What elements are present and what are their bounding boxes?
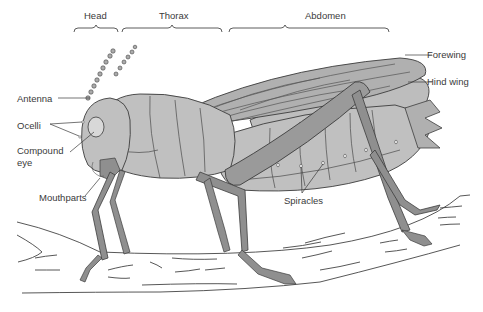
hind-tarsus [402,230,432,246]
abdomen-bracket [229,25,389,32]
antenna-segments [86,45,137,100]
front-leg [92,172,115,260]
front-tarsus [80,255,102,282]
compound-eye [88,117,104,137]
thorax-bracket [122,25,222,32]
label-mouthparts: Mouthparts [39,192,87,203]
head-bracket [74,25,118,32]
front-leg-far [110,170,130,254]
ocellus-lower [79,136,81,138]
label-antenna: Antenna [17,93,52,104]
region-label-head: Head [84,10,107,21]
middle-tarsus [238,250,296,284]
label-ocelli: Ocelli [17,120,41,131]
region-label-abdomen: Abdomen [305,10,346,21]
label-hind-wing: Hind wing [427,76,469,87]
grasshopper-diagram: Head Thorax Abdomen Antenna Ocelli Compo… [0,0,483,312]
ocelli-leader-1 [50,122,82,124]
ocellus-upper [82,121,84,123]
ocelli-leader-2 [50,124,79,136]
region-brackets [74,25,389,32]
grasshopper-illustration [0,0,483,312]
label-compound-eye-line1: Compound [17,145,63,156]
label-spiracles: Spiracles [284,195,323,206]
mouthparts-leader [85,178,100,196]
label-forewing: Forewing [427,49,466,60]
label-compound-eye-line2: eye [17,157,32,168]
region-label-thorax: Thorax [159,10,189,21]
